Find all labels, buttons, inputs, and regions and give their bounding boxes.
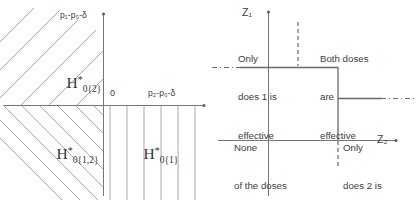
label-only-dose-1-line-2: does 1 is — [238, 91, 277, 104]
label-none-line-1: None — [234, 142, 287, 155]
label-both-doses-line-2: are — [320, 91, 368, 104]
region-label-h0-1-sub: 0{1} — [160, 155, 179, 165]
x-axis-arrow-icon — [203, 104, 206, 107]
y-axis-arrow-icon — [102, 13, 105, 16]
z1-axis-label: Z₁ — [242, 6, 252, 18]
origin-label: 0 — [110, 88, 115, 99]
left-panel-graphics — [0, 0, 210, 200]
region-label-h0-12-base: H — [57, 145, 68, 162]
label-only-dose-1-line-1: Only — [238, 53, 277, 66]
region-label-h0-2-sub: 0{2} — [83, 84, 102, 94]
region-label-h0-12: H*0{1,2} — [41, 127, 98, 184]
region-label-h0-2-base: H — [67, 74, 78, 91]
panel-decision-boundary: Z₁ Z₂ Only does 1 is effective Both dose… — [210, 0, 419, 200]
y-axis-label: p₁-p₀-δ — [60, 10, 87, 20]
label-only-dose-2-effective: Only does 2 is effective — [343, 116, 382, 200]
label-both-doses-line-1: Both doses — [320, 53, 368, 66]
label-none-effective: None of the doses is effective — [234, 116, 287, 200]
label-only-dose-2-line-2: does 2 is — [343, 180, 382, 193]
label-only-dose-2-line-1: Only — [343, 142, 382, 155]
z1-axis-arrow-icon — [267, 11, 270, 14]
region-label-h0-2: H*0{2} — [51, 56, 101, 113]
region-label-h0-1: H*0{1} — [128, 127, 178, 184]
panel-hypothesis-partition: p₁-p₀-δ p₂-p₀-δ 0 H*0{2} H*0{1,2} H*0{1} — [0, 0, 210, 200]
region-label-h0-12-sub: 0{1,2} — [73, 155, 99, 165]
region-label-h0-1-base: H — [144, 145, 155, 162]
z2-axis-arrow-icon — [395, 139, 398, 142]
x-axis-label: p₂-p₀-δ — [148, 88, 175, 98]
label-none-line-2: of the doses — [234, 180, 287, 193]
